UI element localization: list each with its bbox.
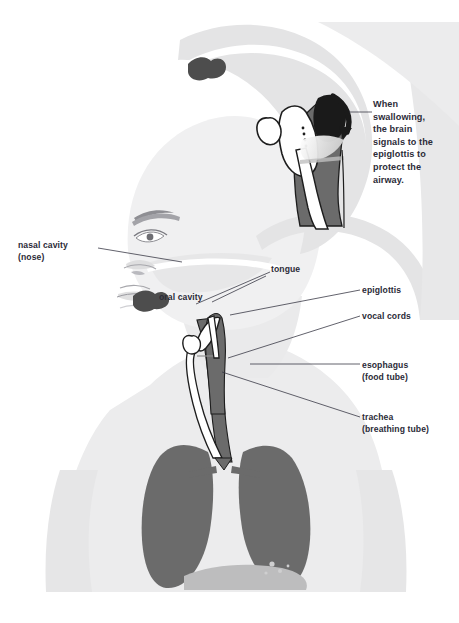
label-oral-cavity: oral cavity xyxy=(159,292,229,304)
label-vocal-cords: vocal cords xyxy=(362,311,442,323)
diagram-canvas: When swallowing, the brain signals to th… xyxy=(0,0,459,623)
label-nasal-cavity: nasal cavity (nose) xyxy=(18,240,118,263)
tongue-shape-inset xyxy=(188,57,226,80)
label-esophagus: esophagus (food tube) xyxy=(362,360,452,383)
callout-swallowing-text: When swallowing, the brain signals to th… xyxy=(373,98,457,186)
label-epiglottis: epiglottis xyxy=(362,285,442,297)
label-trachea: trachea (breathing tube) xyxy=(362,412,458,435)
label-tongue: tongue xyxy=(271,264,341,276)
